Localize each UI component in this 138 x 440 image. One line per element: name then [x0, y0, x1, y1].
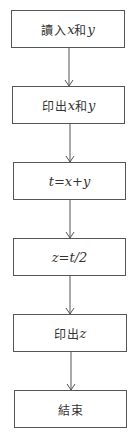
node-text: x — [68, 98, 75, 113]
node-print-xy: 印出x和y — [12, 86, 125, 124]
node-text: 和 — [74, 21, 87, 38]
node-text: z — [80, 326, 87, 341]
node-assign-z: z=t/2 — [13, 238, 126, 276]
node-assign-t: t=x+y — [13, 162, 126, 200]
node-text: y — [88, 98, 95, 113]
node-print-z: 印出z — [13, 314, 127, 352]
node-text: z=t/2 — [52, 250, 88, 265]
node-text: x — [67, 22, 74, 37]
node-text: 印出 — [54, 325, 80, 342]
node-text: t=x+y — [49, 174, 91, 189]
node-text: y — [87, 22, 94, 37]
node-read-input: 讀入x和y — [11, 10, 125, 48]
node-text: 印出 — [42, 97, 68, 114]
node-text: 讀入 — [41, 21, 67, 38]
flow-arrows — [0, 0, 138, 440]
node-end: 結束 — [14, 390, 127, 428]
node-text: 和 — [75, 97, 88, 114]
node-text: 結束 — [58, 401, 84, 418]
